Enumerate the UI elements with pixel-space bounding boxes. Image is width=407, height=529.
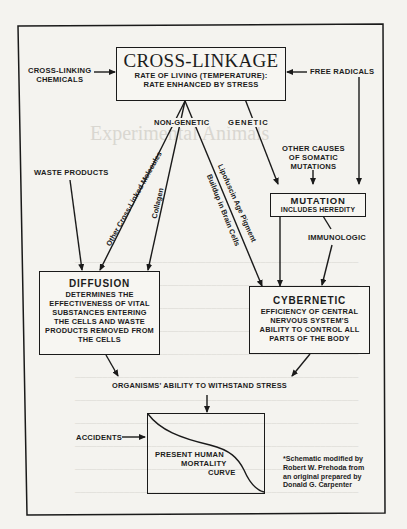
label-cross-linking-chemicals: CROSS-LINKING CHEMICALS (28, 66, 91, 84)
mortality-line1: PRESENT HUMAN (155, 450, 224, 459)
cross-linkage-line2: RATE ENHANCED BY STRESS (117, 80, 285, 89)
cybernetic-title: CYBERNETIC (250, 295, 369, 307)
label-other-causes: OTHER CAUSES OF SOMATIC MUTATIONS (282, 144, 345, 171)
cross-linkage-box: CROSS-LINKAGE RATE OF LIVING (TEMPERATUR… (116, 47, 286, 101)
label-non-genetic: NON-GENETIC (154, 118, 209, 127)
cross-linkage-title: CROSS-LINKAGE (117, 51, 285, 71)
credit-note: *Schematic modified by Robert W. Prehoda… (283, 455, 364, 490)
mortality-line3: CURVE (208, 468, 235, 477)
cross-linkage-line1: RATE OF LIVING (TEMPERATURE): (117, 71, 285, 80)
mortality-line2: MORTALITY (181, 459, 227, 468)
label-stress: ORGANISMS' ABILITY TO WITHSTAND STRESS (112, 381, 287, 390)
cybernetic-box: CYBERNETIC EFFICIENCY OF CENTRAL NERVOUS… (249, 286, 370, 354)
mutation-title: MUTATION (271, 195, 365, 206)
label-free-radicals: FREE RADICALS (310, 67, 374, 76)
mortality-curve-box: PRESENT HUMAN MORTALITY CURVE (147, 413, 265, 494)
mutation-box: MUTATION INCLUDES HEREDITY (270, 193, 366, 217)
diffusion-box: DIFFUSION DETERMINES THE EFFECTIVENESS O… (39, 271, 160, 355)
label-waste-products: WASTE PRODUCTS (34, 168, 109, 177)
label-accidents: ACCIDENTS (76, 433, 122, 442)
label-immunologic: IMMUNOLOGIC (308, 233, 366, 242)
diffusion-title: DIFFUSION (40, 278, 159, 290)
mutation-body: INCLUDES HEREDITY (271, 206, 365, 214)
label-genetic: GENETIC (228, 118, 269, 127)
